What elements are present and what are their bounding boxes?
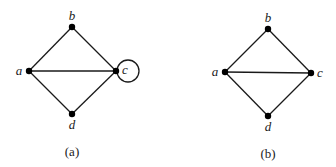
vertex-label-a: a [16, 63, 23, 78]
vertex-label-c: c [317, 65, 323, 80]
vertex-label-c: c [122, 62, 128, 77]
vertex-a [222, 69, 228, 75]
graph-diagram: abcd abcd (a) (b) [0, 0, 336, 167]
edge-d-c [268, 73, 311, 116]
vertex-b [265, 26, 271, 32]
edge-b-c [72, 27, 116, 71]
edge-a-d [29, 71, 72, 114]
edge-b-c [268, 29, 311, 73]
vertex-label-a: a [212, 64, 219, 79]
vertex-label-b: b [69, 8, 76, 23]
caption-b: (b) [260, 146, 275, 161]
vertex-label-d: d [265, 119, 272, 134]
vertex-label-b: b [265, 10, 272, 25]
edge-a-b [29, 27, 72, 71]
edge-a-d [225, 72, 268, 116]
edge-a-c [225, 72, 311, 73]
vertex-b [69, 24, 75, 30]
loop-c [117, 60, 139, 82]
vertex-c [308, 70, 314, 76]
graph-b: abcd [212, 10, 323, 134]
edge-d-c [72, 71, 116, 114]
graph-a: abcd [16, 8, 139, 132]
edge-a-b [225, 29, 268, 72]
caption-a: (a) [65, 144, 79, 159]
vertex-label-d: d [69, 117, 76, 132]
vertex-c [113, 68, 119, 74]
vertex-a [26, 68, 32, 74]
